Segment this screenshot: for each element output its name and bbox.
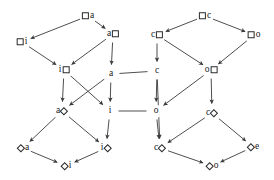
node-letter: i [25, 37, 28, 47]
diagram-canvas: aiaiaccocoaiocaiceio [0, 0, 274, 180]
graph-node-i_box[interactable]: i [58, 64, 71, 76]
diamond-operator-icon [103, 144, 111, 152]
node-letter: o [214, 161, 219, 171]
graph-node-box_a[interactable]: a [81, 10, 95, 22]
node-letter: a [25, 143, 29, 153]
graph-node-dia_o[interactable]: o [205, 160, 220, 172]
diamond-operator-icon [60, 162, 68, 170]
graph-node-o_box[interactable]: o [204, 64, 219, 76]
graph-node-a_dia[interactable]: a [55, 105, 69, 117]
graph-edge-a_box-to-a_plain [111, 42, 112, 64]
edges [29, 19, 247, 163]
diamond-operator-icon [205, 162, 213, 170]
box-operator-icon [156, 32, 163, 39]
graph-edge-i_dia-to-dia_i [75, 151, 99, 162]
box-operator-icon [82, 13, 89, 20]
graph-edge-box_o-to-o_box [218, 40, 247, 64]
diamond-operator-icon [17, 144, 25, 152]
node-letter: i [109, 106, 112, 116]
node-letter: c [155, 66, 159, 76]
graph-edge-c_plain-to-o_plain [156, 80, 157, 102]
graph-edge-a_plain-to-c_plain [119, 72, 147, 74]
graph-edge-box_c-to-c_box [166, 19, 197, 31]
graph-node-a_box[interactable]: a [106, 28, 120, 40]
box-operator-icon [62, 67, 69, 74]
diamond-operator-icon [247, 143, 255, 151]
node-letter: a [109, 69, 113, 79]
graph-edge-c_box-to-o_box [164, 40, 203, 65]
node-letter: o [205, 65, 210, 75]
graph-node-box_o[interactable]: o [247, 29, 262, 41]
graph-edge-a_box-to-i_box [72, 39, 106, 64]
node-letter: e [255, 142, 259, 152]
graph-edge-dia_a-to-dia_i [31, 151, 57, 162]
graph-edge-layer [0, 0, 274, 180]
graph-edge-box_a-to-box_i [31, 19, 80, 38]
graph-node-dia_e[interactable]: e [246, 141, 260, 153]
graph-node-i_plain[interactable]: i [108, 105, 113, 117]
box-operator-icon [210, 67, 217, 74]
graph-node-box_i[interactable]: i [16, 36, 29, 48]
graph-edge-a_dia-to-i_dia [69, 116, 99, 141]
diamond-operator-icon [158, 144, 166, 152]
graph-edge-c_dia_lo-to-dia_o [168, 151, 203, 163]
graph-edge-i_plain-to-i_dia [107, 119, 109, 138]
graph-node-a_plain[interactable]: a [108, 68, 114, 80]
node-letter: c [151, 30, 155, 40]
graph-edge-o_box-to-o_plain [164, 75, 205, 105]
graph-node-i_dia[interactable]: i [100, 142, 113, 154]
graph-edge-a_plain-to-i_plain [110, 83, 111, 102]
graph-node-c_plain[interactable]: c [154, 65, 160, 77]
graph-node-box_c[interactable]: c [198, 10, 212, 22]
graph-node-c_dia_hi[interactable]: c [205, 107, 219, 119]
box-operator-icon [112, 31, 119, 38]
graph-edge-i_box-to-i_plain [70, 76, 103, 105]
graph-edge-o_box-to-c_dia_hi [211, 79, 212, 104]
node-letter: i [59, 65, 62, 75]
graph-edge-dia_e-to-dia_o [221, 151, 246, 162]
graph-edge-box_c-to-box_o [213, 19, 245, 32]
graph-node-c_box[interactable]: c [150, 29, 164, 41]
node-letter: o [256, 30, 261, 40]
graph-edge-box_a-to-a_box [95, 21, 105, 28]
box-operator-icon [248, 32, 255, 39]
graph-edge-a_dia-to-dia_a [30, 117, 56, 142]
graph-edge-c_dia_hi-to-c_dia_lo [168, 118, 205, 143]
graph-edge-i_box-to-a_dia [62, 78, 63, 101]
graph-node-c_dia_lo[interactable]: c [153, 142, 167, 154]
diamond-operator-icon [60, 107, 68, 115]
graph-edge-c_dia_hi-to-dia_e [219, 118, 246, 141]
graph-edge-box_i-to-i_box [29, 47, 56, 65]
node-letter: a [107, 29, 111, 39]
diamond-operator-icon [210, 109, 218, 117]
box-operator-icon [17, 39, 24, 46]
graph-node-dia_i[interactable]: i [60, 160, 73, 172]
graph-node-o_plain[interactable]: o [153, 105, 160, 117]
node-letter: c [207, 11, 211, 21]
box-operator-icon [199, 13, 206, 20]
graph-node-dia_a[interactable]: a [16, 142, 30, 154]
node-letter: a [90, 11, 94, 21]
node-letter: o [154, 106, 159, 116]
